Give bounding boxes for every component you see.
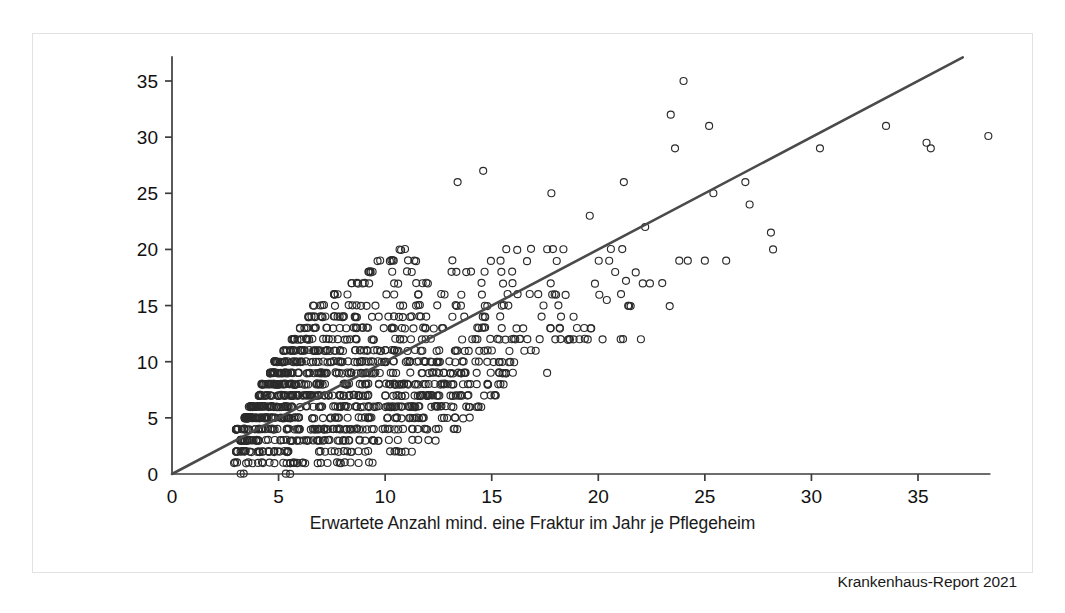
- data-point: [423, 313, 430, 320]
- data-point: [375, 313, 382, 320]
- data-point: [434, 302, 441, 309]
- data-point: [478, 291, 485, 298]
- data-point: [521, 347, 528, 354]
- data-point: [520, 325, 527, 332]
- data-point: [320, 415, 327, 422]
- data-point: [430, 325, 437, 332]
- data-point: [509, 268, 516, 275]
- data-point: [560, 246, 567, 253]
- data-point: [557, 336, 564, 343]
- data-point: [503, 246, 510, 253]
- data-point: [497, 257, 504, 264]
- data-point: [666, 303, 673, 310]
- data-point: [684, 257, 691, 264]
- data-point: [425, 437, 432, 444]
- data-point: [672, 145, 679, 152]
- data-point: [449, 257, 456, 264]
- data-point: [408, 268, 415, 275]
- data-point: [372, 302, 379, 309]
- data-point: [331, 302, 338, 309]
- data-point: [591, 280, 598, 287]
- data-point: [676, 257, 683, 264]
- data-point: [449, 313, 456, 320]
- data-point: [415, 291, 422, 298]
- x-tick-label: 30: [801, 486, 822, 507]
- data-point: [544, 369, 551, 376]
- x-tick-label: 0: [167, 486, 178, 507]
- data-point: [985, 133, 992, 140]
- data-point: [451, 414, 458, 421]
- data-point: [524, 258, 531, 265]
- data-point: [532, 347, 539, 354]
- data-point: [596, 291, 603, 298]
- data-point: [536, 336, 543, 343]
- data-point: [770, 246, 777, 253]
- data-point: [553, 258, 560, 265]
- data-point: [344, 414, 351, 421]
- data-point: [526, 291, 533, 298]
- data-point: [380, 325, 387, 332]
- data-point: [706, 122, 713, 129]
- data-point: [454, 179, 461, 186]
- data-point: [266, 459, 273, 466]
- x-tick-label: 5: [273, 486, 284, 507]
- x-tick-label: 35: [907, 486, 928, 507]
- data-point: [394, 436, 401, 443]
- data-point: [463, 269, 470, 276]
- x-tick-label: 20: [588, 486, 609, 507]
- x-tick-label: 15: [481, 486, 502, 507]
- data-point: [382, 347, 389, 354]
- data-point: [599, 336, 606, 343]
- data-point: [498, 325, 505, 332]
- data-point: [385, 437, 392, 444]
- data-point: [324, 460, 331, 467]
- y-tick-label: 5: [147, 408, 158, 429]
- data-point: [509, 369, 516, 376]
- data-point: [497, 313, 504, 320]
- axes-group: [165, 56, 990, 481]
- data-point: [407, 336, 414, 343]
- data-point: [535, 291, 542, 298]
- data-point: [540, 302, 547, 309]
- data-point: [391, 291, 398, 298]
- data-point: [400, 425, 407, 432]
- data-point: [701, 257, 708, 264]
- data-point: [407, 369, 414, 376]
- data-point: [410, 325, 417, 332]
- data-point: [392, 335, 399, 342]
- data-point: [603, 296, 610, 303]
- data-point: [460, 415, 467, 422]
- data-point: [432, 437, 439, 444]
- data-point: [466, 414, 473, 421]
- data-point: [573, 325, 580, 332]
- y-tick-label: 0: [147, 464, 158, 485]
- data-point: [723, 257, 730, 264]
- data-point: [639, 280, 646, 287]
- data-point: [659, 280, 666, 287]
- data-point: [595, 257, 602, 264]
- data-point: [481, 268, 488, 275]
- data-point: [547, 325, 554, 332]
- data-point: [607, 246, 614, 253]
- data-point: [500, 280, 507, 287]
- data-point: [514, 246, 521, 253]
- data-point: [612, 269, 619, 276]
- data-point: [746, 201, 753, 208]
- data-point: [513, 325, 520, 332]
- data-point: [816, 145, 823, 152]
- data-point: [481, 392, 488, 399]
- data-point: [459, 336, 466, 343]
- data-point: [547, 280, 554, 287]
- data-point: [509, 280, 516, 287]
- y-tick-label: 30: [137, 127, 158, 148]
- data-point: [389, 268, 396, 275]
- data-point: [883, 122, 890, 129]
- data-point: [352, 347, 359, 354]
- data-point: [555, 302, 562, 309]
- data-point: [646, 280, 653, 287]
- x-axis-title: Erwartete Anzahl mind. eine Fraktur im J…: [0, 513, 1065, 534]
- data-point: [344, 291, 351, 298]
- data-point: [620, 179, 627, 186]
- data-point: [528, 245, 535, 252]
- data-point: [637, 336, 644, 343]
